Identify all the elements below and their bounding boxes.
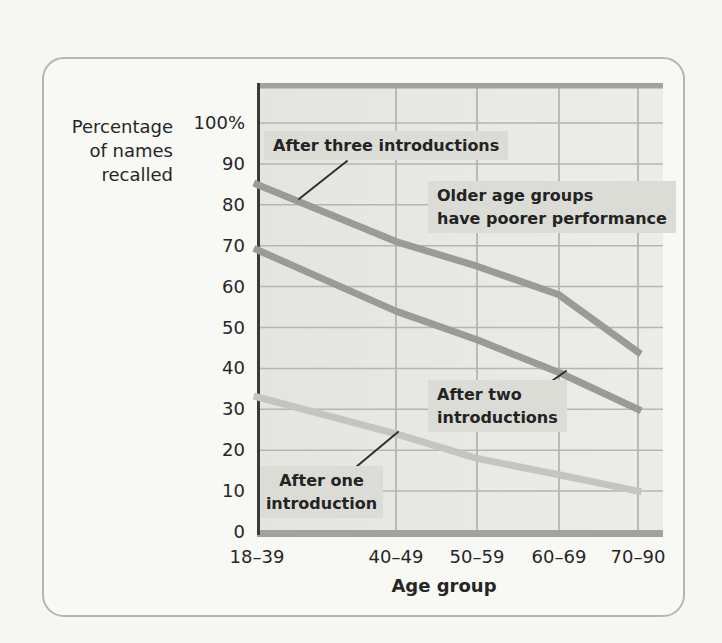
annotation-older-age-groups: Older age groups have poorer performance [428,181,676,233]
y-tick-label: 0 [185,521,245,543]
annotation-after-two-introductions: After two introductions [428,380,567,432]
x-tick-label: 18–39 [212,546,302,568]
y-tick-label: 30 [185,398,245,420]
y-tick-label: 80 [185,194,245,216]
x-tick-label: 50–59 [432,546,522,568]
x-tick-label: 40–49 [351,546,441,568]
y-tick-label: 100% [185,112,245,134]
x-axis-title: Age group [364,575,524,596]
figure-stage: Percentage of names recalled 100%9080706… [0,0,722,643]
y-tick-label: 60 [185,276,245,298]
x-tick-label: 60–69 [514,546,604,568]
annotation-after-three-introductions: After three introductions [264,131,508,160]
annotation-after-one-introduction: After one introduction [260,466,383,518]
y-tick-label: 90 [185,153,245,175]
y-axis-title: Percentage of names recalled [33,115,173,187]
plot-top-band [257,83,663,89]
y-tick-label: 40 [185,357,245,379]
y-tick-label: 20 [185,439,245,461]
y-tick-label: 50 [185,317,245,339]
x-tick-label: 70–90 [593,546,683,568]
plot-bottom-band [257,530,663,537]
y-tick-label: 10 [185,480,245,502]
y-tick-label: 70 [185,235,245,257]
